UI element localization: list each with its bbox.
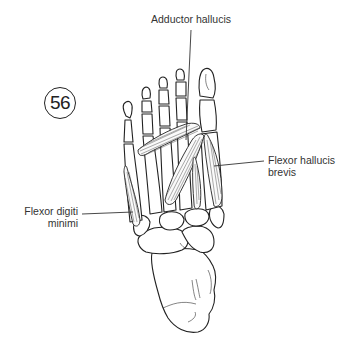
label-adductor-hallucis: Adductor hallucis [151,13,231,25]
leader-flexor-digiti-minimi [82,212,133,214]
leader-flexor-hallucis-brevis [214,161,264,166]
label-fdm-line2: minimi [20,217,78,229]
label-fhb-line2: brevis [268,166,335,178]
tarsal-bones [134,206,224,254]
label-flexor-digiti-minimi: Flexor digiti minimi [20,205,78,229]
calcaneus-bone [151,249,215,333]
label-adductor-hallucis-text: Adductor hallucis [151,13,231,25]
foot-anatomy-figure: 56 Adductor hallucis Flexor hallucis bre… [0,0,357,355]
label-flexor-hallucis-brevis: Flexor hallucis brevis [268,154,335,178]
figure-number-badge: 56 [44,87,76,119]
label-fdm-line1: Flexor digiti [20,205,78,217]
figure-number: 56 [50,92,70,114]
label-fhb-line1: Flexor hallucis [268,154,335,166]
